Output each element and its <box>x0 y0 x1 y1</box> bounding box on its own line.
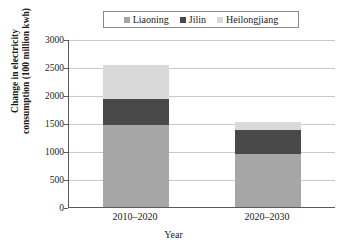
legend-label-heilongjiang: Heilongjiang <box>226 15 278 25</box>
y-axis-title-line1: Change in electricity <box>10 0 21 155</box>
bar-segment-jilin[interactable] <box>235 130 301 154</box>
x-tick-label-2010-2020: 2010–2020 <box>68 212 202 222</box>
x-tick-label-2020-2030: 2020–2030 <box>200 212 334 222</box>
legend-item-jilin: Jilin <box>180 15 206 25</box>
chart-screenshot: Liaoning Jilin Heilongjiang 3000 2500 20… <box>0 0 347 249</box>
y-tick-1000: 1000 <box>30 148 64 158</box>
y-tick-3000: 3000 <box>30 36 64 46</box>
x-axis-title: Year <box>0 229 347 240</box>
bar-2010-2020[interactable] <box>103 65 169 207</box>
legend-swatch-liaoning <box>124 17 130 23</box>
y-tickmark-0 <box>64 208 68 209</box>
bar-segment-liaoning[interactable] <box>103 125 169 207</box>
legend-swatch-jilin <box>180 17 186 23</box>
bar-segment-heilongjiang[interactable] <box>235 122 301 130</box>
y-tick-2500: 2500 <box>30 64 64 74</box>
legend-label-jilin: Jilin <box>189 15 206 25</box>
gridline-3000 <box>69 40 335 41</box>
bar-segment-jilin[interactable] <box>103 99 169 125</box>
y-tick-1500: 1500 <box>30 120 64 130</box>
y-tick-500: 500 <box>30 176 64 186</box>
legend-swatch-heilongjiang <box>217 17 223 23</box>
legend-item-liaoning: Liaoning <box>124 15 169 25</box>
y-axis-title-line2: consumption (100 million kwh) <box>21 0 32 155</box>
bar-segment-heilongjiang[interactable] <box>103 65 169 99</box>
bar-segment-liaoning[interactable] <box>235 154 301 207</box>
legend-item-heilongjiang: Heilongjiang <box>217 15 278 25</box>
plot-area <box>68 40 335 208</box>
bar-2020-2030[interactable] <box>235 122 301 207</box>
y-axis-title: Change in electricity consumption (100 m… <box>10 0 32 155</box>
y-tick-0: 0 <box>30 204 64 214</box>
chart-legend: Liaoning Jilin Heilongjiang <box>103 11 299 28</box>
y-tick-2000: 2000 <box>30 92 64 102</box>
legend-label-liaoning: Liaoning <box>133 15 169 25</box>
